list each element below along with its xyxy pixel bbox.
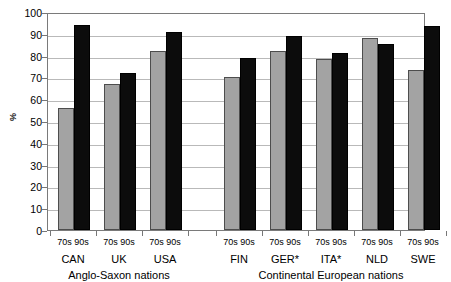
y-axis-tick-mark xyxy=(42,57,47,58)
axis-tick xyxy=(400,231,401,236)
bar-GER-70s xyxy=(270,51,286,230)
y-axis-tick-mark xyxy=(42,187,47,188)
y-axis-tick-label: 80 xyxy=(14,52,42,62)
y-axis-tick-mark xyxy=(42,78,47,79)
axis-tick xyxy=(96,231,97,236)
bar-NLD-90s xyxy=(378,44,394,230)
era-pair-label: 70s 90s xyxy=(357,237,397,247)
y-axis-tick-label: 30 xyxy=(14,161,42,171)
y-axis-tick-label: 60 xyxy=(14,95,42,105)
bar-SWE-70s xyxy=(408,70,424,230)
bar-GER-90s xyxy=(286,36,302,230)
era-pair-label: 70s 90s xyxy=(403,237,443,247)
y-axis-tick-label: 40 xyxy=(14,139,42,149)
axis-tick xyxy=(142,231,143,236)
plot-area xyxy=(47,13,425,231)
era-pair-label: 70s 90s xyxy=(311,237,351,247)
bar-CAN-70s xyxy=(58,108,74,230)
y-axis-tick-label: 70 xyxy=(14,73,42,83)
era-pair-label: 70s 90s xyxy=(53,237,93,247)
axis-tick xyxy=(354,231,355,236)
bar-ITA-90s xyxy=(332,53,348,230)
bar-UK-70s xyxy=(104,84,120,230)
y-axis-tick-mark xyxy=(42,166,47,167)
group-label: Anglo-Saxon nations xyxy=(9,269,229,281)
category-axis: 70s 90sCAN70s 90sUK70s 90sUSA70s 90sFIN7… xyxy=(0,231,431,282)
axis-tick xyxy=(50,231,51,236)
country-label-SWE: SWE xyxy=(395,253,451,265)
era-pair-label: 70s 90s xyxy=(145,237,185,247)
era-pair-label: 70s 90s xyxy=(219,237,259,247)
bars-layer xyxy=(48,14,424,230)
y-axis-tick-label: 90 xyxy=(14,30,42,40)
bar-NLD-70s xyxy=(362,38,378,230)
bar-USA-70s xyxy=(150,51,166,230)
bar-SWE-90s xyxy=(424,26,440,230)
bar-FIN-90s xyxy=(240,58,256,230)
y-axis-tick-mark xyxy=(42,231,47,232)
bar-UK-90s xyxy=(120,73,136,230)
y-axis-tick-mark xyxy=(42,122,47,123)
axis-tick xyxy=(308,231,309,236)
era-pair-label: 70s 90s xyxy=(265,237,305,247)
y-axis-tick-mark xyxy=(42,100,47,101)
axis-tick xyxy=(188,231,189,236)
y-axis-tick-label: 100 xyxy=(14,8,42,18)
y-axis-tick-label: 50 xyxy=(14,117,42,127)
y-axis-tick-mark xyxy=(42,144,47,145)
axis-tick xyxy=(446,231,447,236)
y-axis-tick-mark xyxy=(42,209,47,210)
bar-CAN-90s xyxy=(74,25,90,230)
y-axis-tick-mark xyxy=(42,13,47,14)
bar-USA-90s xyxy=(166,32,182,230)
country-label-USA: USA xyxy=(137,253,193,265)
y-axis-tick-label: 20 xyxy=(14,182,42,192)
group-label: Continental European nations xyxy=(221,269,441,281)
y-axis-tick-label: 10 xyxy=(14,204,42,214)
axis-tick xyxy=(216,231,217,236)
bar-ITA-70s xyxy=(316,59,332,230)
era-pair-label: 70s 90s xyxy=(99,237,139,247)
bar-FIN-70s xyxy=(224,77,240,230)
axis-tick xyxy=(262,231,263,236)
y-axis-tick-mark xyxy=(42,35,47,36)
